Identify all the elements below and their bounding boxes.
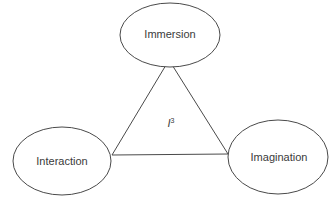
center-label-superscript: 3 [171,117,175,124]
center-label: I3 [168,117,175,130]
node-imagination-label: Imagination [251,151,308,163]
node-immersion-label: Immersion [144,28,195,40]
node-interaction-label: Interaction [36,155,87,167]
triangle [112,60,228,155]
